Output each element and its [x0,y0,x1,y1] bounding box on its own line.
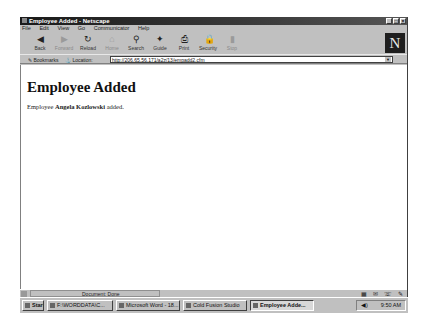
taskbar-item-word[interactable]: Microsoft Word - 18... [116,300,180,311]
taskbar-item-worddata[interactable]: F:\WORDDATA\C... [47,300,113,311]
menu-communicator[interactable]: Communicator [94,25,130,31]
system-tray: ◀) 9:50 AM [356,300,406,311]
netscape-app-icon [22,18,27,23]
print-icon: ⎙ [180,35,189,44]
taskbar-item-netscape[interactable]: Employee Adde... [250,300,314,311]
page-heading: Employee Added [27,79,136,96]
clock[interactable]: 9:50 AM [381,301,401,310]
speaker-icon[interactable]: ◀) [361,301,368,310]
title-bar[interactable]: Employee Added - Netscape _ □ × [20,17,407,25]
menu-view[interactable]: View [57,25,69,31]
desktop-screen: Employee Added - Netscape _ □ × File Edi… [20,17,408,313]
security-button[interactable]: 🔒 Security [198,33,218,53]
windows-logo-icon [25,303,30,308]
confirmation-text: Employee Angela Kozlowski added. [27,103,124,110]
netscape-logo[interactable]: N [385,33,405,53]
reload-button[interactable]: ↻ Reload [78,33,98,53]
folder-icon [50,303,55,308]
stop-button[interactable]: ▮ Stop [222,33,242,53]
home-icon: ⌂ [108,35,117,44]
word-icon [119,303,124,308]
home-button[interactable]: ⌂ Home [102,33,122,53]
forward-arrow-icon: ▶ [60,35,69,44]
start-button[interactable]: Start [22,300,44,311]
url-input[interactable]: http://206.65.56.171/a2z/13/empadd2.cfm … [110,56,393,63]
url-dropdown-arrow-icon[interactable]: ▼ [385,57,391,62]
print-button[interactable]: ⎙ Print [174,33,194,53]
window-controls: _ □ × [386,18,406,24]
maximize-button[interactable]: □ [393,18,399,24]
search-button[interactable]: ⚲ Search [126,33,146,53]
forward-button[interactable]: ▶ Forward [54,33,74,53]
security-lock-icon: 🔒 [204,35,213,44]
netscape-icon [253,303,258,308]
menu-file[interactable]: File [22,25,31,31]
menu-help[interactable]: Help [138,25,149,31]
menu-bar: File Edit View Go Communicator Help [20,25,407,32]
employee-name: Angela Kozlowski [55,103,105,110]
location-label: ⚓ Location: [65,55,93,65]
windows-taskbar: Start F:\WORDDATA\C... Microsoft Word - … [20,297,408,313]
back-button[interactable]: ◀ Back [30,33,50,53]
navigation-toolbar: ◀ Back ▶ Forward ↻ Reload ⌂ Home ⚲ Searc… [20,33,380,53]
close-button[interactable]: × [400,18,406,24]
reload-icon: ↻ [84,35,93,44]
guide-button[interactable]: ✦ Guide [150,33,170,53]
location-bar: ✎ Bookmarks ⚓ Location: http://206.65.56… [20,54,407,64]
stop-icon: ▮ [228,35,237,44]
minimize-button[interactable]: _ [386,18,392,24]
status-bar: Document: Done ▦ ✉ ☏ ✎ [20,289,407,297]
page-content: Employee Added Employee Angela Kozlowski… [20,65,407,289]
window-title: Employee Added - Netscape [29,18,109,24]
netscape-window: Employee Added - Netscape _ □ × File Edi… [20,17,408,297]
taskbar-item-coldfusion[interactable]: Cold Fusion Studio [183,300,247,311]
menu-edit[interactable]: Edit [39,25,48,31]
coldfusion-icon [186,303,191,308]
menu-go[interactable]: Go [78,25,85,31]
back-arrow-icon: ◀ [36,35,45,44]
guide-icon: ✦ [156,35,165,44]
bookmarks-button[interactable]: ✎ Bookmarks [28,55,58,65]
search-icon: ⚲ [132,35,141,44]
url-text: http://206.65.56.171/a2z/13/empadd2.cfm [112,57,205,63]
